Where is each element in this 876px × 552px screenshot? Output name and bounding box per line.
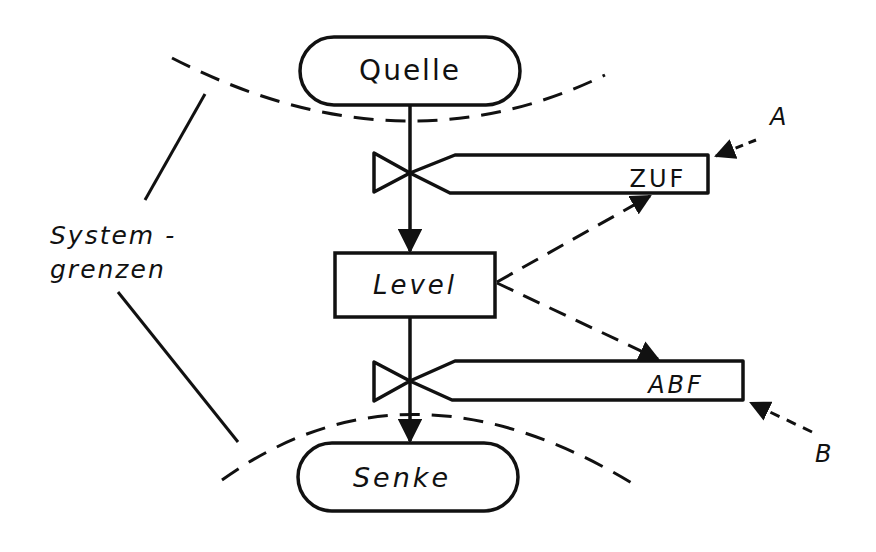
annotation-line-2: grenzen [50,255,166,284]
sink-label: Senke [353,462,451,493]
level-node: Level [335,253,495,317]
annotation-pointer-top [145,94,205,200]
input-link-a [716,140,756,156]
annotation-line-1: System - [50,221,176,250]
inflow-label: ZUF [630,165,687,193]
level-label: Level [373,270,457,300]
sink-node: Senke [298,443,518,511]
valve-icon [374,362,410,401]
outflow-valve: ABF [374,361,743,401]
annotation-pointer-bottom [118,292,238,442]
system-boundaries-annotation: System - grenzen [50,221,176,284]
outflow-label: ABF [646,371,704,399]
input-link-b [751,403,812,432]
valve-icon [374,153,410,192]
source-label: Quelle [359,54,461,87]
info-link-level-to-inflow [497,196,650,282]
source-node: Quelle [300,37,520,105]
input-label-a: A [768,103,786,131]
input-label-b: B [815,440,831,468]
info-link-level-to-outflow [497,283,658,359]
inflow-valve: ZUF [374,153,708,193]
stock-flow-diagram: Quelle ZUF Level ABF Senke A B System - … [0,0,876,552]
